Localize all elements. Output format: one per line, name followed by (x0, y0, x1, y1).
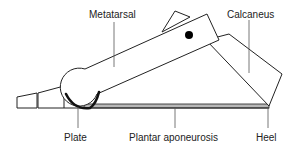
label-heel: Heel (256, 133, 277, 143)
label-plate: Plate (64, 133, 87, 143)
label-metatarsal: Metatarsal (89, 10, 136, 20)
pivot-dot (185, 31, 193, 39)
windlass-diagram (0, 0, 296, 152)
label-calcaneus: Calcaneus (227, 10, 274, 20)
phalanx-distal (17, 93, 37, 108)
metatarsal-bone (60, 14, 219, 106)
label-plantar-aponeurosis: Plantar aponeurosis (129, 133, 218, 143)
plantar-aponeurosis-band (84, 104, 269, 108)
calcaneus-bone (206, 34, 282, 106)
